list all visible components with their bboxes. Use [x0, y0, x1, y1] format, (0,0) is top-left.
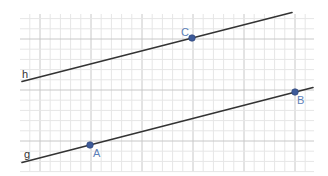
point-label-B: B [297, 94, 304, 106]
geometry-canvas[interactable]: hg ABC [0, 0, 328, 176]
line-label-g: g [24, 148, 30, 160]
point-label-C: C [181, 26, 189, 38]
point-label-A: A [93, 147, 101, 159]
lines-layer: hg [22, 13, 313, 163]
grid [20, 14, 314, 172]
line-label-h: h [22, 68, 28, 80]
point-C[interactable] [189, 35, 196, 42]
line-h[interactable] [22, 13, 292, 82]
points-layer: ABC [87, 26, 305, 159]
